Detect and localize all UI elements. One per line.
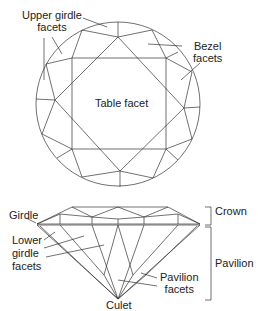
label-line: Upper girdle — [22, 9, 82, 21]
bezel-facets-label: Bezel facets — [193, 40, 222, 64]
side-view-leaders — [26, 218, 157, 286]
girdle-label: Girdle — [9, 209, 38, 221]
label-line: girdle — [12, 247, 42, 260]
pavilion-facets-label: Pavilion facets — [160, 271, 199, 295]
culet-label: Culet — [106, 299, 132, 311]
label-line: facets — [22, 21, 82, 33]
label-line: facets — [12, 260, 42, 273]
label-line: Pavilion — [160, 271, 199, 283]
label-line: facets — [160, 283, 199, 295]
label-line: Lower — [12, 234, 42, 247]
label-line: Bezel — [193, 40, 222, 52]
pavilion-label: Pavilion — [215, 257, 254, 269]
table-facet-label: Table facet — [95, 97, 148, 109]
label-line: facets — [193, 52, 222, 64]
brackets — [205, 207, 211, 300]
upper-girdle-facets-label: Upper girdle facets — [22, 9, 82, 33]
lower-girdle-facets-label: Lower girdle facets — [12, 234, 42, 273]
crown-label: Crown — [215, 205, 247, 217]
